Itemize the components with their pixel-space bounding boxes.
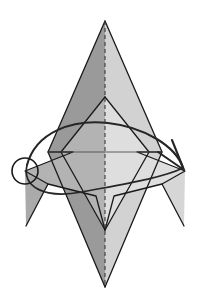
origami-figure (0, 0, 201, 306)
origami-diagram-container (0, 0, 201, 306)
